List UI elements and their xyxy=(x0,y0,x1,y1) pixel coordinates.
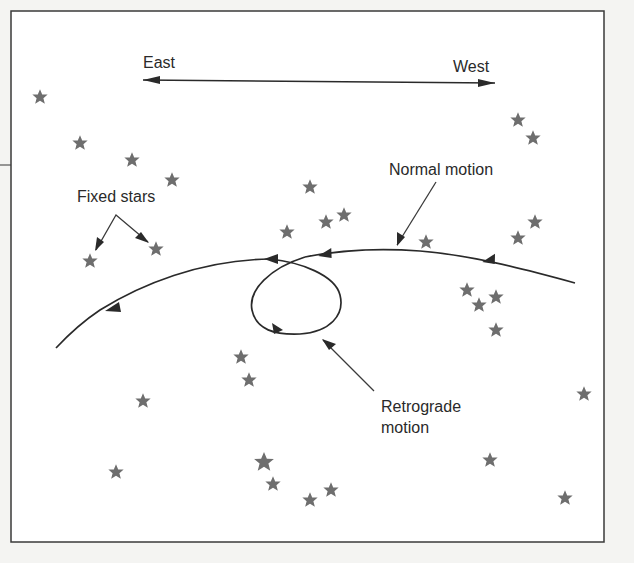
label-fixed-stars: Fixed stars xyxy=(77,188,155,205)
diagram-frame xyxy=(11,11,604,542)
label-west: West xyxy=(453,58,490,75)
label-retrograde-line1: Retrograde xyxy=(381,398,461,415)
label-east: East xyxy=(143,54,176,71)
label-retrograde-line2: motion xyxy=(381,419,429,436)
retrograde-motion-diagram: East West Normal motion Fixed stars Retr… xyxy=(0,0,634,563)
label-normal-motion: Normal motion xyxy=(389,161,493,178)
